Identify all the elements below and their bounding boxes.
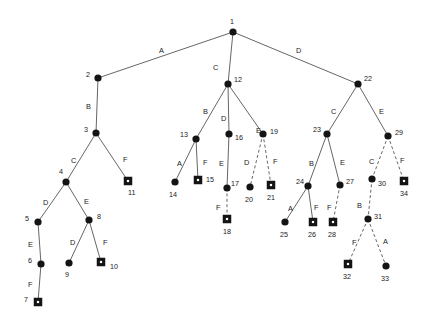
edge-label: E [84, 198, 89, 205]
tree-node-circle [246, 183, 253, 190]
edge-label: F [203, 159, 208, 166]
node-label: 12 [234, 76, 242, 83]
tree-node-circle [65, 259, 72, 266]
tree-node-circle [304, 182, 311, 189]
edge-label: C [369, 158, 374, 165]
tree-node-square-center [403, 180, 405, 182]
edge-label: E [256, 127, 261, 134]
node-label: 33 [381, 275, 389, 282]
tree-node-circle [85, 216, 92, 223]
edge-label: E [340, 159, 345, 166]
tree-node-circle [225, 130, 232, 137]
tree-node-circle [364, 215, 371, 222]
tree-edge [228, 84, 229, 134]
node-label: 25 [280, 231, 288, 238]
node-label: 28 [328, 231, 336, 238]
edge-label: A [177, 160, 182, 167]
node-label: 4 [59, 168, 63, 175]
tree-diagram: ACDBCFDEEFDFBDEAFEFDFCEBEAFFCFBFA1234567… [0, 0, 430, 326]
tree-node-circle [382, 262, 389, 269]
node-label: 21 [267, 194, 275, 201]
tree-node-circle [94, 74, 101, 81]
node-label: 1 [230, 18, 234, 25]
node-label: 23 [313, 126, 321, 133]
tree-edge [38, 264, 41, 302]
node-label: 34 [400, 190, 408, 197]
edge-label: E [219, 160, 224, 167]
node-label: 32 [343, 273, 351, 280]
node-label: 22 [364, 75, 372, 82]
tree-node-circle [62, 178, 69, 185]
tree-node-square-center [127, 180, 129, 182]
edge-label: F [352, 239, 357, 246]
node-label: 20 [245, 196, 253, 203]
tree-node-circle [336, 181, 343, 188]
node-label: 27 [346, 178, 354, 185]
edge-label: F [273, 158, 278, 165]
tree-edge [196, 139, 198, 180]
tree-edge [308, 186, 313, 222]
node-label: 31 [374, 213, 382, 220]
node-label: 30 [378, 180, 386, 187]
tree-node-circle [229, 28, 236, 35]
tree-edge [333, 185, 340, 222]
edge-label: A [288, 205, 293, 212]
node-label: 17 [231, 180, 239, 187]
node-label: 11 [128, 189, 136, 196]
edge-label: F [28, 281, 33, 288]
edge-label: A [159, 47, 164, 54]
edge-label: F [216, 204, 221, 211]
tree-edge [89, 220, 101, 262]
edge-label: D [70, 239, 75, 246]
tree-node-square-center [270, 184, 272, 186]
tree-node-circle [281, 218, 288, 225]
node-label: 6 [28, 257, 32, 264]
tree-edge [233, 32, 358, 84]
edge-label: E [379, 108, 384, 115]
node-label: 9 [65, 271, 69, 278]
edge-label: F [400, 157, 405, 164]
tree-node-circle [192, 135, 199, 142]
node-label: 2 [86, 71, 90, 78]
edge-label: D [43, 199, 48, 206]
edge-label: B [86, 103, 91, 110]
edge-label: A [383, 238, 388, 245]
tree-node-circle [384, 132, 391, 139]
tree-node-circle [171, 178, 178, 185]
tree-node-square-center [197, 179, 199, 181]
tree-edge [227, 134, 229, 188]
tree-node-square-center [100, 261, 102, 263]
tree-node-square-center [226, 218, 228, 220]
edge-label: C [331, 108, 336, 115]
node-label: 10 [110, 263, 118, 270]
node-label: 26 [308, 231, 316, 238]
node-label: 19 [270, 128, 278, 135]
tree-node-square-center [37, 301, 39, 303]
edge-label: D [221, 115, 226, 122]
tree-edge [38, 222, 41, 264]
tree-edge [228, 32, 233, 84]
tree-node-circle [34, 218, 41, 225]
tree-node-circle [37, 260, 44, 267]
tree-node-circle [354, 80, 361, 87]
edge-label: F [327, 204, 332, 211]
tree-node-square-center [312, 221, 314, 223]
tree-node-circle [323, 130, 330, 137]
node-label: 5 [25, 215, 29, 222]
node-label: 13 [180, 131, 188, 138]
tree-node-circle [223, 184, 230, 191]
node-label: 7 [24, 296, 28, 303]
edge-label: D [296, 47, 301, 54]
edge-label: B [357, 202, 362, 209]
tree-edge [348, 219, 368, 264]
node-label: 15 [206, 176, 214, 183]
tree-node-circle [224, 80, 231, 87]
tree-node-square-center [347, 263, 349, 265]
tree-edge [250, 134, 263, 187]
edge-label: C [71, 157, 76, 164]
tree-node-circle [368, 175, 375, 182]
tree-edge [263, 134, 271, 185]
tree-edge [96, 78, 98, 133]
edge-label: F [103, 239, 108, 246]
node-label: 24 [296, 178, 304, 185]
